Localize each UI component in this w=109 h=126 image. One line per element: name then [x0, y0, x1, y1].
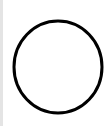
canvas: [0, 0, 109, 126]
circle-outline-icon: [0, 0, 109, 126]
circle-shape: [14, 21, 102, 113]
